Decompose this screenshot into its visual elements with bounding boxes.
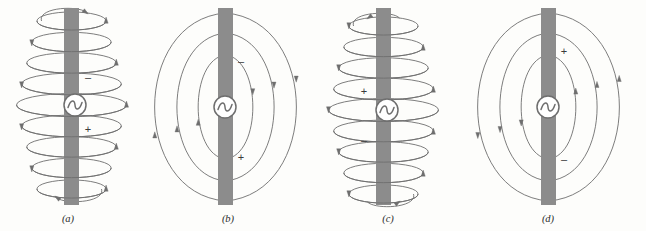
- figure-canvas: –+(a)–+(b)+–(c)+–(d): [0, 0, 646, 231]
- polarity-sign-c-0: +: [361, 85, 367, 97]
- panel-caption-a: (a): [62, 213, 75, 225]
- polarity-sign-c-1: –: [361, 134, 368, 146]
- polarity-sign-d-1: –: [561, 153, 568, 165]
- polarity-sign-a-1: +: [85, 123, 91, 135]
- polarity-sign-d-0: +: [561, 45, 567, 57]
- polarity-sign-b-1: +: [238, 151, 244, 163]
- polarity-sign-a-0: –: [85, 71, 92, 83]
- panel-caption-c: (c): [382, 213, 394, 225]
- panel-caption-b: (b): [222, 213, 235, 225]
- panel-caption-d: (d): [542, 213, 555, 225]
- antenna-field-figure: –+(a)–+(b)+–(c)+–(d): [0, 0, 646, 231]
- polarity-sign-b-0: –: [238, 55, 245, 67]
